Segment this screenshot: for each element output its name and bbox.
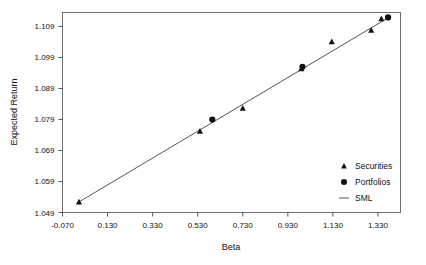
legend-circle-icon xyxy=(341,179,347,185)
x-tick-label: 0.130 xyxy=(98,221,119,230)
x-tick-label: 1.130 xyxy=(323,221,344,230)
security-market-line-chart: -0.0700.1300.3300.5300.7300.9301.1301.33… xyxy=(0,0,426,265)
portfolios-data-points xyxy=(209,14,391,122)
x-tick-label: 0.530 xyxy=(188,221,209,230)
y-tick-label: 1.089 xyxy=(34,84,55,93)
security-marker xyxy=(368,27,374,33)
legend-triangle-icon xyxy=(341,163,347,168)
x-tick-label: -0.070 xyxy=(51,221,74,230)
x-axis-title: Beta xyxy=(222,242,241,252)
y-tick-label: 1.079 xyxy=(34,115,55,124)
chart-canvas: -0.0700.1300.3300.5300.7300.9301.1301.33… xyxy=(0,0,426,265)
x-tick-label: 1.330 xyxy=(368,221,389,230)
y-axis-ticks xyxy=(59,26,63,212)
x-tick-label: 0.330 xyxy=(143,221,164,230)
y-tick-label: 1.059 xyxy=(34,177,55,186)
portfolio-marker xyxy=(209,116,215,122)
y-tick-label: 1.069 xyxy=(34,146,55,155)
legend-label: SML xyxy=(355,193,373,203)
x-tick-label: 0.730 xyxy=(233,221,254,230)
y-tick-label: 1.049 xyxy=(34,209,55,218)
legend-label: Securities xyxy=(355,161,392,171)
y-tick-label: 1.109 xyxy=(34,22,55,31)
x-axis-ticks xyxy=(63,213,378,217)
portfolio-marker xyxy=(299,64,305,70)
sml-polyline xyxy=(79,17,389,202)
portfolio-marker xyxy=(385,14,391,20)
x-axis-tick-labels: -0.0700.1300.3300.5300.7300.9301.1301.33… xyxy=(51,221,388,230)
sml-line xyxy=(79,17,389,202)
plot-frame xyxy=(63,13,401,213)
y-axis-title: Expected Return xyxy=(9,78,19,145)
y-axis-tick-labels: 1.0491.0591.0691.0791.0891.0991.109 xyxy=(34,22,55,217)
legend-label: Portfolios xyxy=(355,177,390,187)
x-tick-label: 0.930 xyxy=(278,221,299,230)
chart-legend: SecuritiesPortfoliosSML xyxy=(339,161,392,203)
y-tick-label: 1.099 xyxy=(34,53,55,62)
security-marker xyxy=(76,199,82,205)
security-marker xyxy=(329,38,335,44)
security-marker xyxy=(378,16,384,22)
